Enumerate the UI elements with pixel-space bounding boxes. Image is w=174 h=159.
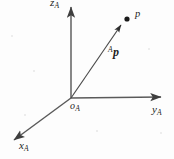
x-axis-label: xA <box>19 140 29 153</box>
point-p-marker <box>124 16 129 21</box>
coordinate-frame-drawing <box>0 0 174 159</box>
position-vector-label: Ap <box>108 46 119 58</box>
position-vector-line <box>71 25 121 98</box>
point-p-label: p <box>135 9 140 20</box>
y-axis-line <box>71 97 161 98</box>
coordinate-frame-figure: zA yA xA oA p Ap <box>0 0 174 159</box>
origin-label: oA <box>70 101 80 113</box>
y-axis-label: yA <box>152 104 162 117</box>
z-axis-label: zA <box>50 0 59 10</box>
x-axis-line <box>14 98 71 140</box>
